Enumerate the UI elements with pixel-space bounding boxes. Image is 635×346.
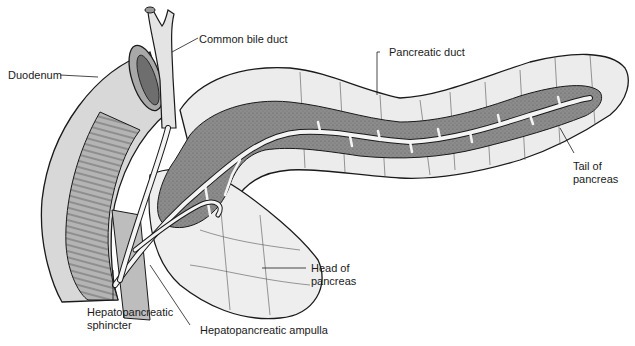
label-common-bile-duct: Common bile duct bbox=[199, 33, 288, 46]
label-tail-of-pancreas: Tail of pancreas bbox=[573, 160, 618, 186]
label-hepatopancreatic-sphincter: Hepatopancreatic sphincter bbox=[87, 306, 173, 332]
label-head-line-2: pancreas bbox=[311, 275, 356, 288]
label-head-of-pancreas: Head of pancreas bbox=[311, 262, 356, 288]
anatomy-illustration bbox=[0, 0, 635, 346]
label-tail-line-2: pancreas bbox=[573, 173, 618, 186]
pancreas-anatomy-diagram: Duodenum Common bile duct Pancreatic duc… bbox=[0, 0, 635, 346]
label-head-line-1: Head of bbox=[311, 262, 356, 275]
label-pancreatic-duct: Pancreatic duct bbox=[389, 46, 465, 59]
label-duodenum: Duodenum bbox=[8, 69, 62, 82]
label-sphincter-line-1: Hepatopancreatic bbox=[87, 306, 173, 319]
label-tail-line-1: Tail of bbox=[573, 160, 618, 173]
label-hepatopancreatic-ampulla: Hepatopancreatic ampulla bbox=[200, 324, 328, 337]
label-sphincter-line-2: sphincter bbox=[87, 319, 173, 332]
